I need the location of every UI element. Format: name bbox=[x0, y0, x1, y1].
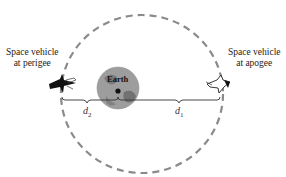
perigee-label-line1: Space vehicle bbox=[6, 47, 59, 58]
space-vehicle-apogee-icon bbox=[206, 75, 230, 93]
earth-label: Earth bbox=[107, 74, 128, 84]
d1-label: d1 bbox=[175, 105, 184, 119]
orbit-path bbox=[61, 15, 223, 173]
apogee-label-line1: Space vehicle bbox=[228, 47, 281, 58]
d2-label: d2 bbox=[83, 105, 92, 119]
d2-subscript: 2 bbox=[88, 111, 92, 119]
orbit-diagram bbox=[0, 0, 286, 177]
d1-subscript: 1 bbox=[180, 111, 184, 119]
space-vehicle-perigee-icon bbox=[49, 74, 76, 93]
apogee-label-line2: at apogee bbox=[228, 58, 281, 69]
apogee-label: Space vehicle at apogee bbox=[228, 47, 281, 69]
perigee-label: Space vehicle at perigee bbox=[6, 47, 59, 69]
distance-brace bbox=[62, 97, 220, 103]
perigee-label-line2: at perigee bbox=[6, 58, 59, 69]
